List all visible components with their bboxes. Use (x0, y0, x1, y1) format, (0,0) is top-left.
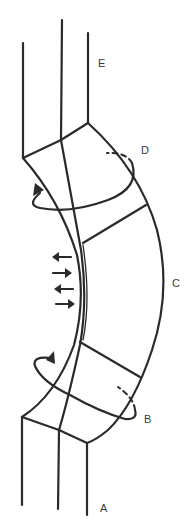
label-e: E (98, 58, 105, 69)
label-d: D (141, 145, 149, 156)
cross-section-lines (80, 205, 146, 377)
force-arrows (52, 252, 75, 309)
bent-tube-diagram (0, 0, 194, 530)
label-a: A (100, 503, 107, 514)
bottom-straight-segment (22, 417, 87, 515)
top-straight-segment (23, 20, 88, 158)
label-c: C (172, 278, 180, 289)
upper-rotation-arrow (33, 153, 134, 210)
curved-segment (22, 123, 163, 443)
lower-rotation-arrow (35, 351, 136, 419)
label-b: B (144, 414, 151, 425)
